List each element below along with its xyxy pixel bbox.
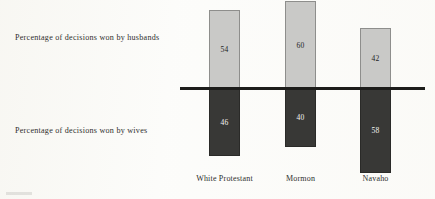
series-label-wives: Percentage of decisions won by wives: [15, 126, 147, 135]
bar-value-label: 42: [372, 54, 380, 63]
bar-value-label: 58: [372, 126, 380, 135]
bar-value-label: 46: [221, 118, 229, 127]
bar-segment-husbands: 42: [360, 28, 391, 89]
bar-segment-wives: 46: [209, 89, 240, 156]
category-label: White Protestant: [196, 174, 253, 183]
bar-group: 6040: [285, 1, 316, 147]
category-label: Navaho: [362, 174, 388, 183]
bar-segment-wives: 40: [285, 89, 316, 147]
category-label: Mormon: [286, 174, 315, 183]
scan-artifact: [6, 192, 32, 195]
bar-segment-husbands: 60: [285, 1, 316, 88]
bar-segment-wives: 58: [360, 89, 391, 173]
bar-value-label: 54: [221, 45, 229, 54]
bar-value-label: 40: [297, 113, 305, 122]
zero-baseline-axis: [180, 87, 425, 90]
diverging-bar-chart: Percentage of decisions won by husbands …: [0, 0, 435, 199]
series-label-husbands: Percentage of decisions won by husbands: [15, 33, 159, 42]
bar-group: 4258: [360, 28, 391, 174]
bar-value-label: 60: [297, 41, 305, 50]
bar-segment-husbands: 54: [209, 10, 240, 89]
bar-group: 5446: [209, 10, 240, 156]
